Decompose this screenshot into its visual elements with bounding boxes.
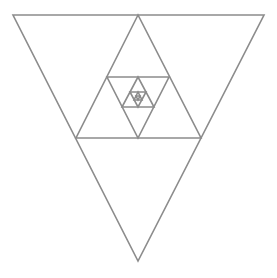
nested-triangles-diagram <box>0 0 277 278</box>
triangle-layer <box>13 15 264 261</box>
